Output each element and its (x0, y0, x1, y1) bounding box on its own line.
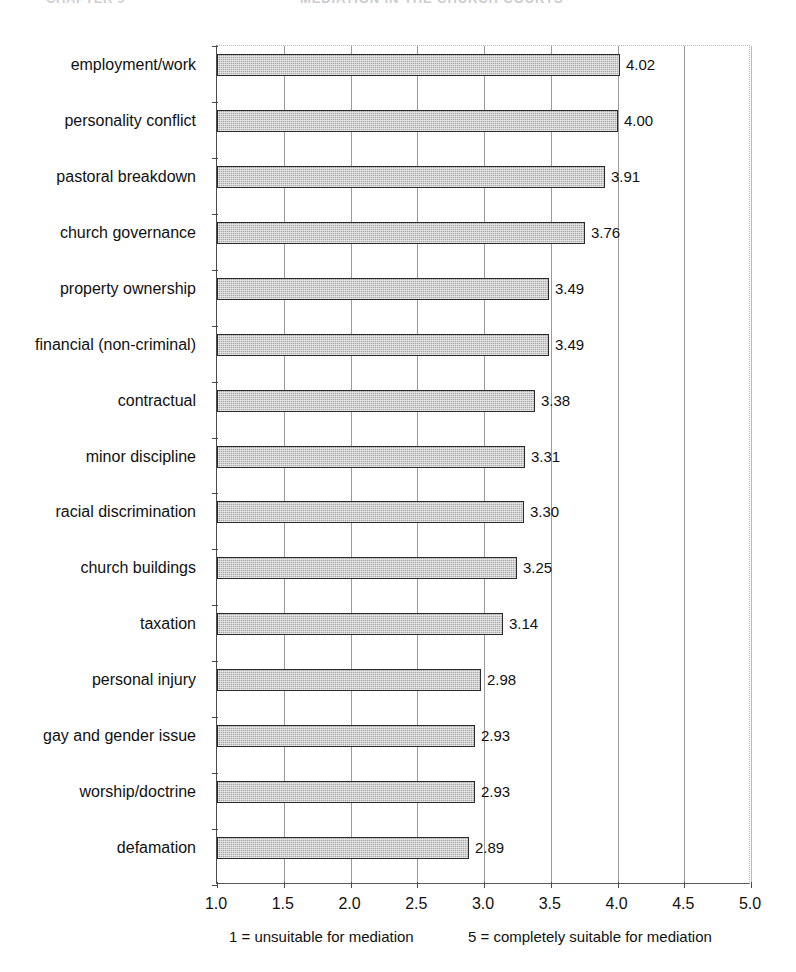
category-tick-mark (212, 549, 218, 550)
bar-value-label: 3.49 (555, 334, 584, 356)
bar-value-label: 3.25 (523, 557, 552, 579)
category-tick-mark (212, 493, 218, 494)
value-tick-mark (217, 882, 218, 888)
category-tick-mark (212, 382, 218, 383)
value-tick-label: 1.5 (253, 895, 313, 913)
bar-value-label: 2.93 (481, 725, 510, 747)
bar-value-label: 3.76 (591, 222, 620, 244)
category-tick-mark (212, 661, 218, 662)
value-tick-label: 3.5 (520, 895, 580, 913)
scale-low-note: 1 = unsuitable for mediation (229, 928, 414, 945)
category-tick-mark (212, 102, 218, 103)
bar-value-label: 4.00 (624, 110, 653, 132)
value-tick-mark (484, 882, 485, 888)
category-label: employment/work (0, 55, 196, 74)
bar (217, 557, 517, 579)
category-label: church governance (0, 223, 196, 242)
plot-area: 4.024.003.913.763.493.493.383.313.303.25… (216, 45, 750, 884)
gridline (684, 46, 685, 885)
value-tick-label: 1.0 (186, 895, 246, 913)
value-tick-label: 4.5 (653, 895, 713, 913)
category-tick-mark (212, 326, 218, 327)
category-label: racial discrimination (0, 502, 196, 521)
category-tick-mark (212, 158, 218, 159)
scale-legend: 1 = unsuitable for mediation 5 = complet… (0, 928, 796, 952)
bar (217, 390, 535, 412)
value-tick-mark (551, 882, 552, 888)
category-tick-mark (212, 773, 218, 774)
bar (217, 278, 549, 300)
bar-value-label: 3.31 (531, 446, 560, 468)
bar-value-label: 3.14 (509, 613, 538, 635)
category-label: taxation (0, 614, 196, 633)
category-label: worship/doctrine (0, 782, 196, 801)
bar (217, 166, 605, 188)
category-label: minor discipline (0, 447, 196, 466)
bar-value-label: 3.91 (611, 166, 640, 188)
category-label: gay and gender issue (0, 726, 196, 745)
bar (217, 222, 585, 244)
bar (217, 446, 525, 468)
category-tick-mark (212, 829, 218, 830)
category-label: personal injury (0, 670, 196, 689)
bar-value-label: 3.38 (541, 390, 570, 412)
value-tick-mark (417, 882, 418, 888)
bar-value-label: 2.89 (475, 837, 504, 859)
value-tick-label: 2.5 (386, 895, 446, 913)
value-tick-label: 2.0 (320, 895, 380, 913)
bar-value-label: 2.98 (487, 669, 516, 691)
value-tick-label: 4.0 (587, 895, 647, 913)
value-tick-mark (351, 882, 352, 888)
bar (217, 501, 524, 523)
category-tick-mark (212, 717, 218, 718)
bar (217, 110, 618, 132)
bar (217, 837, 469, 859)
category-tick-mark (212, 270, 218, 271)
category-label: personality conflict (0, 111, 196, 130)
bar (217, 334, 549, 356)
bar-chart: employment/workpersonality conflictpasto… (0, 0, 796, 972)
category-tick-mark (212, 438, 218, 439)
value-tick-mark (618, 882, 619, 888)
category-label: defamation (0, 838, 196, 857)
scale-high-note: 5 = completely suitable for mediation (468, 928, 712, 945)
bar-value-label: 2.93 (481, 781, 510, 803)
gridline (751, 46, 752, 885)
bar (217, 669, 481, 691)
bar-value-label: 3.49 (555, 278, 584, 300)
bar-value-label: 4.02 (626, 54, 655, 76)
bar (217, 725, 475, 747)
category-label: property ownership (0, 279, 196, 298)
category-label: pastoral breakdown (0, 167, 196, 186)
category-label: financial (non-criminal) (0, 335, 196, 354)
value-tick-mark (751, 882, 752, 888)
bar (217, 781, 475, 803)
category-label: contractual (0, 391, 196, 410)
value-tick-label: 5.0 (720, 895, 780, 913)
value-tick-mark (684, 882, 685, 888)
category-tick-mark (212, 214, 218, 215)
bar-value-label: 3.30 (530, 501, 559, 523)
bar (217, 613, 503, 635)
category-tick-mark (212, 46, 218, 47)
value-tick-label: 3.0 (453, 895, 513, 913)
bar (217, 54, 620, 76)
value-tick-mark (284, 882, 285, 888)
category-tick-mark (212, 605, 218, 606)
category-axis-labels: employment/workpersonality conflictpasto… (0, 0, 206, 972)
category-label: church buildings (0, 558, 196, 577)
